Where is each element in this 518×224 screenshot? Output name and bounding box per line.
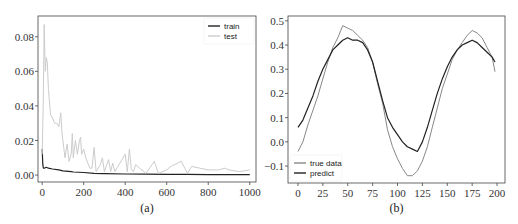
x-tick-label: 100 [389, 187, 406, 199]
y-tick-label: 0.08 [15, 31, 35, 43]
x-tick-label: 0 [295, 187, 301, 199]
chart-b-prediction: 0255075100125150175200−0.10.00.10.20.30.… [264, 15, 506, 215]
y-tick-label: −0.1 [264, 160, 284, 172]
figure-canvas: 020040060080010000.000.020.040.060.08tra… [0, 0, 518, 224]
chart-a-training-loss: 020040060080010000.000.020.040.060.08tra… [15, 16, 262, 215]
x-tick-label: 400 [117, 186, 134, 198]
y-tick-label: 0.02 [15, 135, 34, 147]
x-tick-label: 125 [414, 187, 431, 199]
subfigure-caption: (a) [140, 201, 153, 215]
series-line-test [42, 25, 250, 174]
x-tick-label: 200 [489, 187, 506, 199]
x-tick-label: 800 [200, 186, 217, 198]
legend: true datapredict [290, 155, 342, 181]
y-tick-label: 0.00 [15, 169, 35, 181]
y-tick-label: 0.5 [270, 15, 284, 27]
series-line-true-data [298, 26, 495, 176]
x-tick-label: 25 [317, 187, 329, 199]
legend-label: predict [310, 169, 335, 178]
x-tick-label: 200 [75, 186, 92, 198]
y-tick-label: 0.3 [270, 63, 284, 75]
y-tick-label: 0.06 [15, 65, 35, 77]
x-tick-label: 75 [367, 187, 379, 199]
series-line-predict [298, 38, 495, 152]
x-tick-label: 175 [464, 187, 481, 199]
legend-label: train [224, 22, 240, 31]
x-tick-label: 50 [342, 187, 354, 199]
y-tick-label: 0.0 [270, 136, 284, 148]
legend: traintest [204, 18, 254, 44]
y-tick-label: 0.1 [270, 112, 284, 124]
x-tick-label: 600 [158, 186, 175, 198]
subfigure-caption: (b) [390, 201, 404, 215]
y-tick-label: 0.4 [270, 39, 284, 51]
y-tick-label: 0.2 [270, 87, 284, 99]
x-tick-label: 150 [439, 187, 456, 199]
x-tick-label: 1000 [239, 186, 262, 198]
legend-label: test [224, 32, 238, 41]
legend-label: true data [310, 159, 342, 168]
x-tick-label: 0 [39, 186, 45, 198]
y-tick-label: 0.04 [15, 100, 35, 112]
